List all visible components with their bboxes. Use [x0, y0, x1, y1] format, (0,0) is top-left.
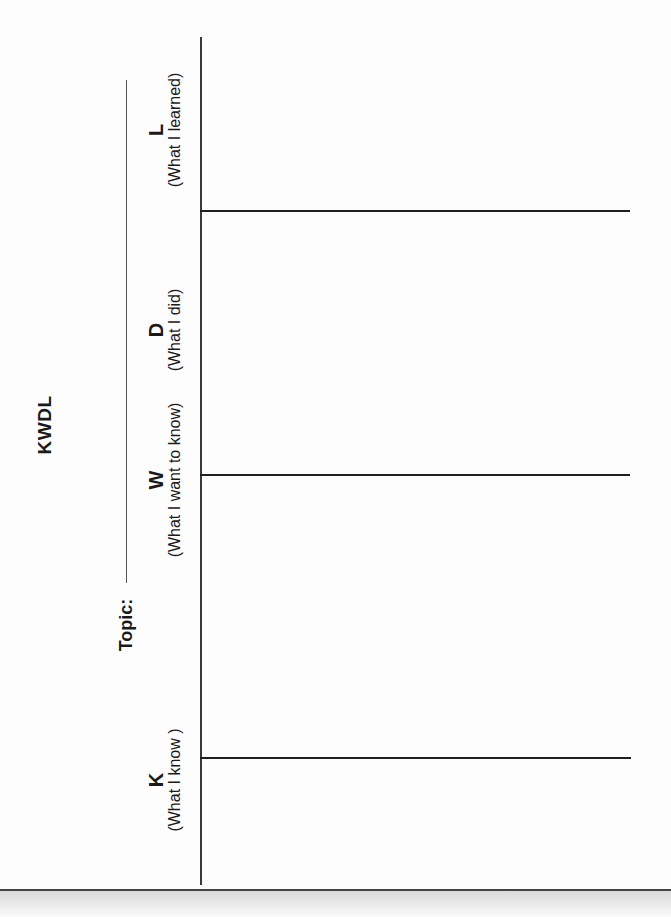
column-header-d: D (What I did) [146, 289, 184, 372]
column-letter-d: D [146, 289, 167, 372]
kwdl-worksheet-page: KWDL Topic: K (What I know ) W (What I w… [0, 0, 671, 917]
page-bottom-shadow [0, 891, 671, 917]
column-letter-w: W [146, 403, 167, 558]
column-area-l[interactable] [202, 37, 630, 210]
column-header-k: K (What I know ) [146, 728, 184, 831]
column-subtitle-w: (What I want to know) [167, 403, 184, 558]
column-area-w[interactable] [202, 476, 630, 757]
column-area-k[interactable] [202, 759, 630, 885]
column-subtitle-d: (What I did) [167, 289, 184, 372]
column-subtitle-k: (What I know ) [167, 728, 184, 831]
column-letter-k: K [146, 728, 167, 831]
column-subtitle-l: (What I learned) [167, 73, 184, 188]
worksheet-title: KWDL [35, 396, 55, 455]
topic-label: Topic: [117, 599, 136, 652]
topic-fill-line[interactable] [126, 80, 127, 583]
column-area-d[interactable] [202, 212, 630, 474]
column-letter-l: L [146, 73, 167, 188]
column-header-l: L (What I learned) [146, 73, 184, 188]
column-header-w: W (What I want to know) [146, 403, 184, 558]
